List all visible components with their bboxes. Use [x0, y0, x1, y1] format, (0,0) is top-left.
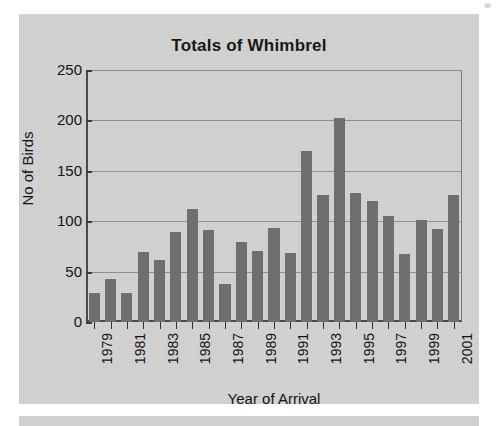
bar-1993	[317, 195, 328, 322]
y-tick-label-250: 250	[42, 61, 82, 78]
bar-1981	[121, 293, 132, 322]
bar-1979	[89, 293, 100, 322]
x-tick-mark-1980	[111, 322, 112, 329]
x-tick-label-1999: 1999	[426, 333, 442, 364]
bar-1984	[170, 232, 181, 322]
x-tick-label-2001: 2001	[459, 333, 475, 364]
plot-area	[86, 70, 462, 322]
next-figure-strip	[19, 416, 479, 426]
bar-1989	[252, 251, 263, 322]
y-tick-mark-200	[86, 120, 92, 122]
x-tick-label-1985: 1985	[197, 333, 213, 364]
x-tick-mark-1997	[388, 322, 389, 329]
x-tick-mark-1998	[405, 322, 406, 329]
y-tick-label-0: 0	[42, 313, 82, 330]
gridline-250	[86, 70, 462, 71]
x-tick-label-1983: 1983	[165, 333, 181, 364]
bar-1995	[350, 193, 361, 322]
x-tick-mark-1991	[290, 322, 291, 329]
bar-1994	[334, 118, 345, 322]
bar-1988	[236, 242, 247, 322]
bar-2001	[448, 195, 459, 322]
x-tick-mark-1988	[241, 322, 242, 329]
bar-1987	[219, 284, 230, 322]
bar-1991	[285, 253, 296, 322]
bar-1982	[138, 252, 149, 322]
x-tick-mark-1982	[143, 322, 144, 329]
x-tick-mark-1999	[421, 322, 422, 329]
y-tick-mark-250	[86, 70, 92, 72]
x-tick-label-1981: 1981	[132, 333, 148, 364]
bar-1983	[154, 260, 165, 322]
x-tick-label-1989: 1989	[263, 333, 279, 364]
x-tick-mark-1992	[307, 322, 308, 329]
bar-1990	[268, 228, 279, 322]
y-tick-mark-0	[86, 322, 92, 324]
bar-1996	[367, 201, 378, 322]
x-tick-mark-1994	[339, 322, 340, 329]
bar-1999	[416, 220, 427, 322]
x-tick-mark-1990	[274, 322, 275, 329]
x-tick-mark-1979	[94, 322, 95, 329]
bar-1986	[203, 230, 214, 322]
screenshot-page: Totals of Whimbrel No of Birds 250200150…	[0, 0, 497, 426]
x-tick-mark-2000	[437, 322, 438, 329]
gridline-200	[86, 120, 462, 121]
x-tick-mark-1995	[356, 322, 357, 329]
x-tick-label-1991: 1991	[295, 333, 311, 364]
x-tick-label-1995: 1995	[361, 333, 377, 364]
chart-title: Totals of Whimbrel	[19, 36, 479, 56]
x-tick-mark-1984	[176, 322, 177, 329]
y-tick-label-150: 150	[42, 162, 82, 179]
gridline-150	[86, 171, 462, 172]
x-tick-mark-1983	[160, 322, 161, 329]
y-tick-mark-150	[86, 171, 92, 173]
bar-1998	[399, 254, 410, 322]
scan-artifact-speck	[484, 3, 491, 8]
y-tick-label-200: 200	[42, 111, 82, 128]
y-tick-label-50: 50	[42, 263, 82, 280]
x-tick-mark-1986	[209, 322, 210, 329]
x-tick-mark-1993	[323, 322, 324, 329]
x-tick-label-1993: 1993	[328, 333, 344, 364]
y-tick-mark-100	[86, 221, 92, 223]
x-tick-mark-1989	[258, 322, 259, 329]
bar-1980	[105, 279, 116, 322]
x-tick-label-1979: 1979	[99, 333, 115, 364]
x-axis-title: Year of Arrival	[86, 390, 462, 407]
x-tick-mark-1981	[127, 322, 128, 329]
x-tick-label-1997: 1997	[393, 333, 409, 364]
x-tick-mark-1985	[192, 322, 193, 329]
bar-2000	[432, 229, 443, 322]
bar-1985	[187, 209, 198, 322]
x-tick-mark-1987	[225, 322, 226, 329]
y-tick-mark-50	[86, 272, 92, 274]
y-tick-label-100: 100	[42, 212, 82, 229]
gridline-100	[86, 221, 462, 222]
x-tick-mark-2001	[454, 322, 455, 329]
y-axis-tick-labels: 250200150100500	[38, 70, 82, 322]
bar-1992	[301, 151, 312, 322]
x-tick-mark-1996	[372, 322, 373, 329]
bar-1997	[383, 216, 394, 322]
x-tick-label-1987: 1987	[230, 333, 246, 364]
